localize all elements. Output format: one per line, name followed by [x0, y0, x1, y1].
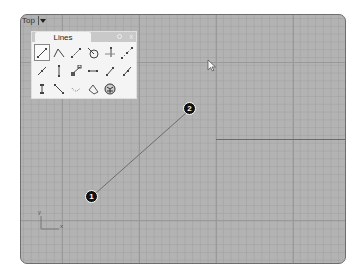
- drawn-line[interactable]: [21, 15, 346, 264]
- y-axis-label: y: [38, 209, 41, 215]
- point-marker-1: 1: [85, 190, 98, 203]
- top-viewport[interactable]: Top Lines x: [20, 14, 346, 264]
- mouse-cursor-icon: [207, 59, 217, 72]
- x-axis-label: x: [60, 223, 63, 229]
- axis-indicator: y x: [39, 215, 63, 235]
- point-marker-2: 2: [183, 102, 196, 115]
